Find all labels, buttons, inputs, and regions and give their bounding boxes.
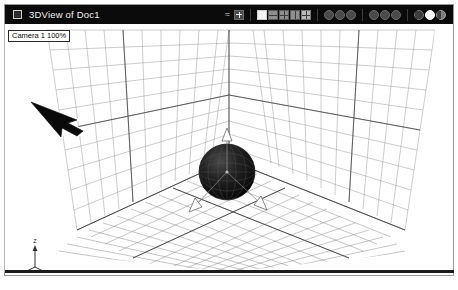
render-preview-icon[interactable] bbox=[324, 10, 334, 20]
shading-wireframe-icon[interactable] bbox=[257, 10, 267, 20]
shading-textured-icon[interactable] bbox=[301, 10, 311, 20]
render-region-icon[interactable] bbox=[335, 10, 345, 20]
toolbar-separator bbox=[317, 9, 318, 21]
move-gizmo-icon[interactable] bbox=[234, 10, 244, 20]
toolbar-separator bbox=[407, 9, 408, 21]
window-menu-icon[interactable] bbox=[13, 10, 22, 19]
shading-smooth-icon[interactable] bbox=[290, 10, 300, 20]
curve-tool-icon[interactable]: ≈ bbox=[222, 10, 233, 20]
camera-label[interactable]: Camera 1 100% bbox=[8, 30, 70, 42]
shading-flat-icon[interactable] bbox=[279, 10, 289, 20]
window-bottom-edge bbox=[5, 270, 454, 273]
right-wall-grid-major bbox=[229, 30, 420, 202]
shading-hidden-line-icon[interactable] bbox=[268, 10, 278, 20]
shadow-toggle-icon[interactable] bbox=[391, 10, 401, 20]
material-sphere-light-icon[interactable] bbox=[425, 10, 435, 20]
window-titlebar[interactable]: 3DView of Doc1 ≈ bbox=[5, 5, 453, 24]
toolbar-group-render[interactable] bbox=[322, 10, 358, 20]
window-title: 3DView of Doc1 bbox=[29, 9, 100, 20]
viewport-canvas[interactable]: Z X Y bbox=[5, 24, 453, 272]
viewport-3d[interactable]: Z X Y bbox=[5, 24, 453, 272]
toolbar-separator bbox=[250, 9, 251, 21]
toolbar-separator bbox=[362, 9, 363, 21]
toolbar-group-shading[interactable] bbox=[255, 10, 313, 20]
gizmo-y-handle bbox=[254, 196, 267, 210]
toolbar-group-lighting[interactable] bbox=[367, 10, 403, 20]
toolbar-group-materials[interactable] bbox=[412, 10, 448, 20]
light-toggle-icon[interactable] bbox=[369, 10, 379, 20]
toolbar-group-tools[interactable]: ≈ bbox=[220, 10, 246, 20]
gizmo-origin bbox=[225, 170, 228, 173]
viewport-toolbar[interactable]: ≈ bbox=[220, 5, 451, 24]
axis-triad-z-label: Z bbox=[33, 238, 37, 244]
axis-triad: Z X Y bbox=[10, 238, 60, 272]
material-sphere-gray-icon[interactable] bbox=[436, 10, 446, 20]
render-final-icon[interactable] bbox=[346, 10, 356, 20]
ambient-light-icon[interactable] bbox=[380, 10, 390, 20]
app-root: 3DView of Doc1 ≈ bbox=[0, 0, 458, 290]
material-sphere-dark-icon[interactable] bbox=[414, 10, 424, 20]
axis-triad-z-arrow bbox=[33, 245, 38, 251]
